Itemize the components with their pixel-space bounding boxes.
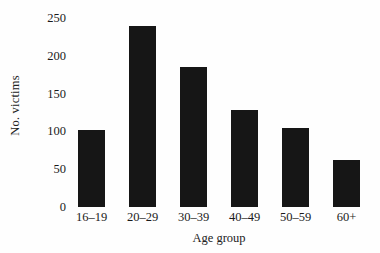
- plot-area: [66, 18, 372, 207]
- x-axis-tick-labels: 16–1920–2930–3940–4950–5960+: [66, 210, 372, 228]
- y-axis-tick-label: 200: [47, 50, 66, 63]
- bar: [333, 160, 360, 207]
- y-axis-title-text: No. victims: [8, 75, 23, 136]
- bar-chart-figure: No. victims 050100150200250 16–1920–2930…: [0, 0, 380, 253]
- x-axis-tick-label: 60+: [315, 210, 379, 225]
- bar: [129, 26, 156, 207]
- y-axis-tick-label: 100: [47, 125, 66, 138]
- y-axis-title: No. victims: [6, 0, 24, 210]
- bar: [78, 130, 105, 207]
- y-axis-tick-label: 250: [47, 12, 66, 25]
- x-axis-title: Age group: [66, 231, 372, 246]
- y-axis-tick-label: 150: [47, 87, 66, 100]
- bar: [180, 67, 207, 207]
- y-axis-tick-label: 50: [54, 163, 67, 176]
- bar: [282, 128, 309, 207]
- bar: [231, 110, 258, 207]
